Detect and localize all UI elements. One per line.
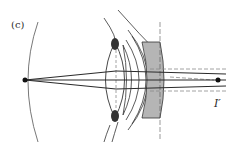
panel-label: (c)	[11, 19, 24, 30]
optics-diagram	[0, 0, 236, 150]
image-point-label: I′	[214, 97, 221, 110]
ray-lower-cont	[116, 86, 226, 89]
ciliary-body-bottom	[111, 110, 119, 122]
lens-curve-lower	[112, 122, 118, 142]
ciliary-body-top	[111, 38, 119, 50]
image-point	[216, 78, 221, 83]
ray-upper-cont	[116, 71, 226, 74]
ray-upper	[25, 71, 116, 80]
wavefront-arc	[28, 22, 38, 142]
ray-lower	[25, 80, 116, 89]
cornea-curve-bottom	[104, 125, 110, 142]
object-point	[23, 78, 28, 83]
